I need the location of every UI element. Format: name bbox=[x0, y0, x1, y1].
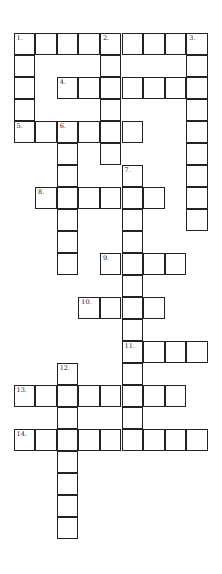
grid-cell[interactable] bbox=[122, 363, 144, 385]
grid-cell[interactable]: 4. bbox=[57, 77, 79, 99]
grid-cell[interactable] bbox=[100, 187, 122, 209]
grid-cell[interactable] bbox=[165, 77, 187, 99]
clue-number: 2. bbox=[103, 35, 109, 42]
grid-cell[interactable]: 12. bbox=[57, 363, 79, 385]
grid-cell[interactable] bbox=[186, 187, 208, 209]
clue-number: 6. bbox=[60, 123, 66, 130]
grid-cell[interactable] bbox=[57, 473, 79, 495]
grid-cell[interactable]: 10. bbox=[78, 297, 100, 319]
grid-cell[interactable] bbox=[122, 319, 144, 341]
grid-cell[interactable] bbox=[57, 187, 79, 209]
clue-number: 1. bbox=[17, 35, 23, 42]
grid-cell[interactable] bbox=[143, 341, 165, 363]
clue-number: 12. bbox=[60, 365, 70, 372]
clue-number: 3. bbox=[189, 35, 195, 42]
grid-cell[interactable] bbox=[122, 275, 144, 297]
grid-cell[interactable]: 13. bbox=[14, 385, 36, 407]
grid-cell[interactable] bbox=[122, 429, 144, 451]
grid-cell[interactable] bbox=[143, 297, 165, 319]
grid-cell[interactable] bbox=[78, 385, 100, 407]
grid-cell[interactable] bbox=[186, 429, 208, 451]
grid-cell[interactable] bbox=[100, 143, 122, 165]
grid-cell[interactable] bbox=[165, 385, 187, 407]
grid-cell[interactable] bbox=[143, 385, 165, 407]
grid-cell[interactable] bbox=[100, 99, 122, 121]
grid-cell[interactable] bbox=[100, 385, 122, 407]
grid-cell[interactable] bbox=[143, 253, 165, 275]
grid-cell[interactable] bbox=[14, 55, 36, 77]
grid-cell[interactable] bbox=[14, 99, 36, 121]
clue-number: 14. bbox=[17, 431, 27, 438]
grid-cell[interactable] bbox=[78, 121, 100, 143]
grid-cell[interactable] bbox=[57, 429, 79, 451]
grid-cell[interactable] bbox=[165, 33, 187, 55]
grid-cell[interactable] bbox=[186, 143, 208, 165]
grid-cell[interactable]: 8. bbox=[35, 187, 57, 209]
grid-cell[interactable] bbox=[122, 297, 144, 319]
grid-cell[interactable] bbox=[57, 385, 79, 407]
grid-cell[interactable] bbox=[122, 407, 144, 429]
grid-cell[interactable] bbox=[122, 77, 144, 99]
grid-cell[interactable] bbox=[186, 165, 208, 187]
grid-cell[interactable] bbox=[57, 253, 79, 275]
grid-cell[interactable] bbox=[122, 209, 144, 231]
grid-cell[interactable]: 2. bbox=[100, 33, 122, 55]
grid-cell[interactable] bbox=[122, 231, 144, 253]
grid-cell[interactable] bbox=[57, 495, 79, 517]
grid-cell[interactable] bbox=[100, 121, 122, 143]
clue-number: 11. bbox=[125, 343, 135, 350]
grid-cell[interactable] bbox=[35, 429, 57, 451]
grid-cell[interactable] bbox=[57, 407, 79, 429]
grid-cell[interactable] bbox=[122, 253, 144, 275]
clue-number: 7. bbox=[125, 167, 131, 174]
grid-cell[interactable]: 1. bbox=[14, 33, 36, 55]
grid-cell[interactable]: 11. bbox=[122, 341, 144, 363]
grid-cell[interactable]: 3. bbox=[186, 33, 208, 55]
grid-cell[interactable] bbox=[122, 33, 144, 55]
grid-cell[interactable] bbox=[186, 99, 208, 121]
grid-cell[interactable] bbox=[57, 451, 79, 473]
grid-cell[interactable] bbox=[57, 209, 79, 231]
grid-cell[interactable] bbox=[122, 121, 144, 143]
grid-cell[interactable] bbox=[143, 429, 165, 451]
grid-cell[interactable] bbox=[57, 231, 79, 253]
grid-cell[interactable] bbox=[78, 429, 100, 451]
grid-cell[interactable] bbox=[186, 77, 208, 99]
grid-cell[interactable] bbox=[78, 33, 100, 55]
grid-cell[interactable] bbox=[57, 165, 79, 187]
grid-cell[interactable] bbox=[165, 429, 187, 451]
clue-number: 4. bbox=[60, 79, 66, 86]
grid-cell[interactable]: 5. bbox=[14, 121, 36, 143]
clue-number: 5. bbox=[17, 123, 23, 130]
grid-cell[interactable] bbox=[35, 121, 57, 143]
grid-cell[interactable] bbox=[100, 429, 122, 451]
grid-cell[interactable] bbox=[122, 187, 144, 209]
grid-cell[interactable] bbox=[143, 77, 165, 99]
grid-cell[interactable] bbox=[100, 55, 122, 77]
grid-cell[interactable]: 7. bbox=[122, 165, 144, 187]
grid-cell[interactable] bbox=[143, 33, 165, 55]
grid-cell[interactable] bbox=[14, 77, 36, 99]
grid-cell[interactable] bbox=[35, 385, 57, 407]
grid-cell[interactable] bbox=[57, 517, 79, 539]
grid-cell[interactable] bbox=[186, 341, 208, 363]
grid-cell[interactable] bbox=[100, 77, 122, 99]
grid-cell[interactable] bbox=[143, 187, 165, 209]
grid-cell[interactable] bbox=[100, 297, 122, 319]
grid-cell[interactable] bbox=[186, 209, 208, 231]
grid-cell[interactable]: 14. bbox=[14, 429, 36, 451]
grid-cell[interactable] bbox=[186, 121, 208, 143]
grid-cell[interactable] bbox=[165, 253, 187, 275]
grid-cell[interactable] bbox=[57, 143, 79, 165]
clue-number: 8. bbox=[38, 189, 44, 196]
grid-cell[interactable] bbox=[78, 77, 100, 99]
grid-cell[interactable] bbox=[165, 341, 187, 363]
grid-cell[interactable] bbox=[122, 385, 144, 407]
grid-cell[interactable] bbox=[78, 187, 100, 209]
grid-cell[interactable]: 9. bbox=[100, 253, 122, 275]
grid-cell[interactable]: 6. bbox=[57, 121, 79, 143]
clue-number: 9. bbox=[103, 255, 109, 262]
grid-cell[interactable] bbox=[186, 55, 208, 77]
grid-cell[interactable] bbox=[35, 33, 57, 55]
grid-cell[interactable] bbox=[57, 33, 79, 55]
